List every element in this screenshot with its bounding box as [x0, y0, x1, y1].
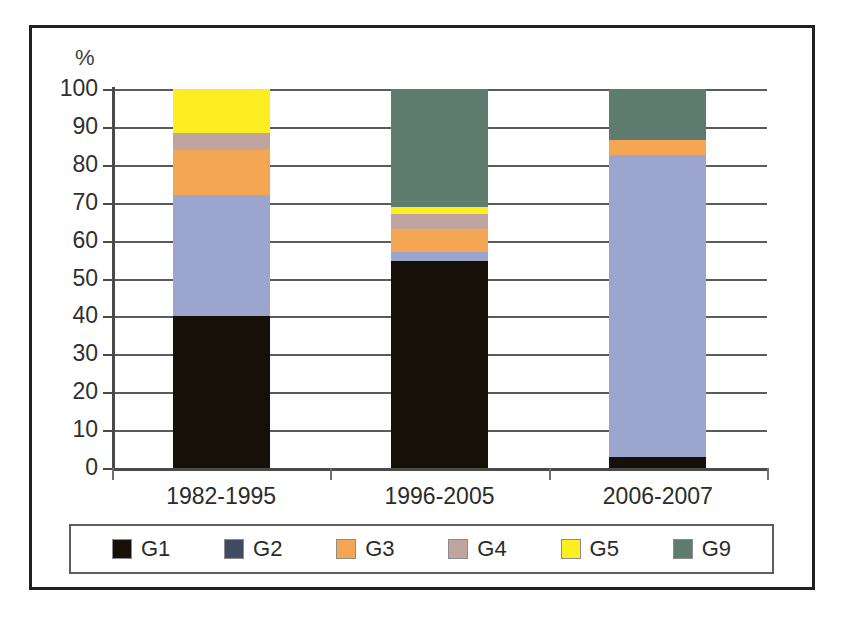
bar-segment-G1[interactable] — [173, 316, 270, 468]
y-axis-tick-label: 40 — [38, 302, 98, 329]
legend-label-G4: G4 — [477, 536, 506, 562]
legend-swatch-G4 — [448, 539, 468, 559]
x-axis-tick — [767, 468, 769, 480]
legend-label-G2: G2 — [253, 536, 282, 562]
legend-item-G9[interactable]: G9 — [673, 536, 731, 562]
y-axis-tick-labels: 1009080706050403020100 — [32, 89, 98, 468]
figure-frame: % 1009080706050403020100 1982-19951996-2… — [29, 25, 815, 590]
legend-swatch-G3 — [336, 539, 356, 559]
legend-item-G3[interactable]: G3 — [336, 536, 394, 562]
y-axis-unit-label: % — [75, 45, 95, 71]
chart-page: % 1009080706050403020100 1982-19951996-2… — [0, 0, 846, 617]
x-axis-tick-label: 2006-2007 — [553, 483, 763, 510]
y-axis-tick — [103, 468, 112, 470]
legend-item-G4[interactable]: G4 — [448, 536, 506, 562]
y-axis-tick — [103, 354, 112, 356]
bar-segment-G4[interactable] — [391, 214, 488, 229]
y-axis-tick-label: 80 — [38, 151, 98, 178]
y-axis-tick-label: 10 — [38, 416, 98, 443]
y-axis-tick — [103, 165, 112, 167]
y-axis-tick-label: 60 — [38, 227, 98, 254]
x-axis-line — [112, 468, 767, 471]
y-axis-tick-label: 70 — [38, 189, 98, 216]
bar-2006-2007[interactable] — [609, 89, 706, 468]
x-axis-tick — [549, 468, 551, 480]
bar-segment-G3[interactable] — [173, 150, 270, 195]
plot-wrapper: % 1009080706050403020100 1982-19951996-2… — [32, 28, 818, 488]
bar-segment-G1[interactable] — [391, 261, 488, 468]
legend: G1G2G3G4G5G9 — [69, 524, 774, 574]
y-axis-tick-label: 30 — [38, 340, 98, 367]
legend-label-G9: G9 — [702, 536, 731, 562]
y-axis-tick — [103, 241, 112, 243]
bar-segment-G5[interactable] — [391, 207, 488, 215]
bar-segment-G5[interactable] — [173, 89, 270, 133]
y-axis-tick — [103, 316, 112, 318]
bar-segment-G2[interactable] — [609, 155, 706, 456]
y-axis-tick — [103, 430, 112, 432]
bar-segment-G1[interactable] — [609, 457, 706, 468]
legend-swatch-G1 — [112, 539, 132, 559]
bar-segment-G2[interactable] — [391, 252, 488, 261]
legend-swatch-G9 — [673, 539, 693, 559]
bar-segment-G3[interactable] — [391, 229, 488, 252]
y-axis-tick-label: 100 — [38, 75, 98, 102]
x-axis-tick-label: 1982-1995 — [116, 483, 326, 510]
legend-item-G5[interactable]: G5 — [561, 536, 619, 562]
x-axis-tick — [330, 468, 332, 480]
y-axis-tick — [103, 89, 112, 91]
y-axis-tick — [103, 127, 112, 129]
bar-segment-G4[interactable] — [173, 133, 270, 150]
legend-swatch-G2 — [224, 539, 244, 559]
bar-1982-1995[interactable] — [173, 89, 270, 468]
x-axis-tick-label: 1996-2005 — [335, 483, 545, 510]
y-axis-tick-label: 0 — [38, 454, 98, 481]
legend-items: G1G2G3G4G5G9 — [71, 526, 772, 572]
y-axis-tick — [103, 392, 112, 394]
legend-swatch-G5 — [561, 539, 581, 559]
bar-segment-G9[interactable] — [391, 89, 488, 206]
legend-label-G1: G1 — [141, 536, 170, 562]
legend-item-G1[interactable]: G1 — [112, 536, 170, 562]
legend-item-G2[interactable]: G2 — [224, 536, 282, 562]
bar-1996-2005[interactable] — [391, 89, 488, 468]
bar-segment-G3[interactable] — [609, 140, 706, 155]
bars-layer — [112, 89, 767, 468]
y-axis-tick — [103, 279, 112, 281]
y-axis-tick-label: 90 — [38, 113, 98, 140]
legend-label-G5: G5 — [590, 536, 619, 562]
bar-segment-G9[interactable] — [609, 89, 706, 140]
x-axis-tick — [112, 468, 114, 480]
y-axis-tick-label: 50 — [38, 265, 98, 292]
bar-segment-G2[interactable] — [173, 195, 270, 316]
legend-label-G3: G3 — [365, 536, 394, 562]
y-axis-tick-label: 20 — [38, 378, 98, 405]
y-axis-tick — [103, 203, 112, 205]
